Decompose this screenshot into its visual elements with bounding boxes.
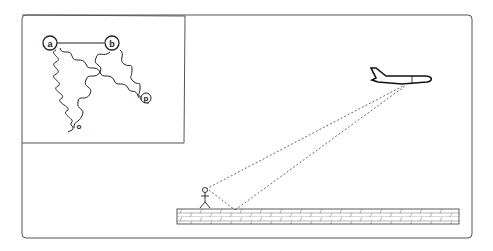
node-b: b: [105, 36, 119, 50]
feynman-diagram: [54, 43, 148, 132]
edge-a-o: [54, 50, 73, 132]
reflected-path-down: [209, 190, 235, 210]
outer-frame: [22, 15, 472, 238]
svg-text:p: p: [144, 94, 149, 103]
node-o: o: [77, 122, 82, 131]
node-p: p: [141, 93, 151, 103]
node-a: a: [43, 36, 57, 50]
direct-path: [206, 86, 403, 189]
edge-b-o: [74, 52, 110, 128]
reflected-path-up: [235, 86, 405, 210]
airplane-icon: [371, 68, 431, 84]
diagram-canvas: a b p o: [0, 0, 493, 251]
brick-wall: [177, 209, 459, 224]
person-icon: [200, 188, 210, 209]
inset-frame: [22, 15, 185, 143]
sight-lines: [206, 86, 405, 210]
svg-text:o: o: [77, 122, 82, 131]
edge-a-p: [60, 48, 148, 102]
svg-text:b: b: [109, 39, 115, 49]
